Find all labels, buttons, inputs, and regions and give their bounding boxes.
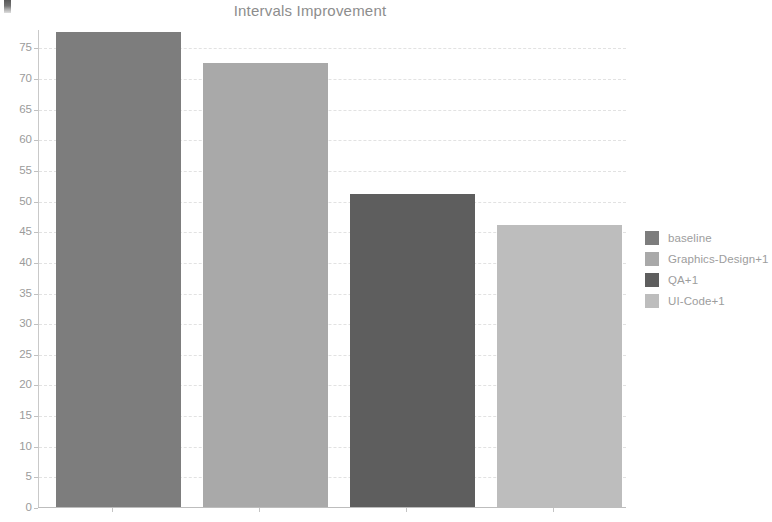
x-axis-line xyxy=(38,507,626,508)
x-axis-tick xyxy=(553,508,554,512)
y-axis-tick-label: 60 xyxy=(2,134,32,146)
y-axis-tick xyxy=(34,447,38,448)
y-axis-tick-label: 25 xyxy=(2,349,32,361)
y-axis-tick-label: 50 xyxy=(2,196,32,208)
y-axis-tick-label: 65 xyxy=(2,104,32,116)
y-axis-tick-label: 55 xyxy=(2,165,32,177)
legend-label: UI-Code+1 xyxy=(668,295,725,307)
legend-label: QA+1 xyxy=(668,274,698,286)
y-axis-tick xyxy=(34,171,38,172)
y-axis-tick xyxy=(34,202,38,203)
x-axis-tick xyxy=(112,508,113,512)
legend-swatch-icon xyxy=(645,231,659,245)
y-axis-tick xyxy=(34,79,38,80)
y-axis-tick xyxy=(34,477,38,478)
x-axis-tick xyxy=(406,508,407,512)
y-axis-tick-label: 15 xyxy=(2,410,32,422)
y-axis-tick-label: 0 xyxy=(2,502,32,514)
bar-chart: Intervals Improvement 051015202530354045… xyxy=(0,0,772,522)
legend-swatch-icon xyxy=(645,273,659,287)
y-axis-tick xyxy=(34,385,38,386)
y-axis-tick-label: 40 xyxy=(2,257,32,269)
y-axis-tick xyxy=(34,324,38,325)
y-axis-tick-label: 70 xyxy=(2,73,32,85)
y-axis-tick-label: 45 xyxy=(2,226,32,238)
x-axis-tick xyxy=(259,508,260,512)
y-axis-tick xyxy=(34,416,38,417)
y-axis-tick xyxy=(34,110,38,111)
bar xyxy=(56,32,182,507)
y-axis-tick-label: 75 xyxy=(2,42,32,54)
y-axis-tick xyxy=(34,263,38,264)
y-axis-tick xyxy=(34,48,38,49)
bar xyxy=(497,225,623,507)
legend-item: QA+1 xyxy=(645,270,770,289)
legend-label: baseline xyxy=(668,232,712,244)
y-axis-line xyxy=(38,30,39,508)
legend-label: Graphics-Design+1 xyxy=(668,253,768,265)
y-axis-tick-label: 10 xyxy=(2,441,32,453)
y-axis-tick xyxy=(34,294,38,295)
y-axis-tick-label: 5 xyxy=(2,471,32,483)
y-axis-tick xyxy=(34,508,38,509)
chart-legend: baselineGraphics-Design+1QA+1UI-Code+1 xyxy=(645,228,770,312)
y-axis-tick-labels: 051015202530354045505560657075 xyxy=(0,30,32,508)
y-axis-tick xyxy=(34,232,38,233)
legend-item: baseline xyxy=(645,228,770,247)
legend-swatch-icon xyxy=(645,252,659,266)
y-axis-tick xyxy=(34,140,38,141)
bar xyxy=(350,194,476,507)
legend-item: UI-Code+1 xyxy=(645,291,770,310)
plot-area xyxy=(38,30,626,508)
bar xyxy=(203,63,329,507)
y-axis-tick-label: 20 xyxy=(2,379,32,391)
y-axis-tick xyxy=(34,355,38,356)
chart-title: Intervals Improvement xyxy=(0,2,620,19)
legend-item: Graphics-Design+1 xyxy=(645,249,770,268)
legend-swatch-icon xyxy=(645,294,659,308)
y-axis-tick-label: 30 xyxy=(2,318,32,330)
y-axis-tick-label: 35 xyxy=(2,288,32,300)
